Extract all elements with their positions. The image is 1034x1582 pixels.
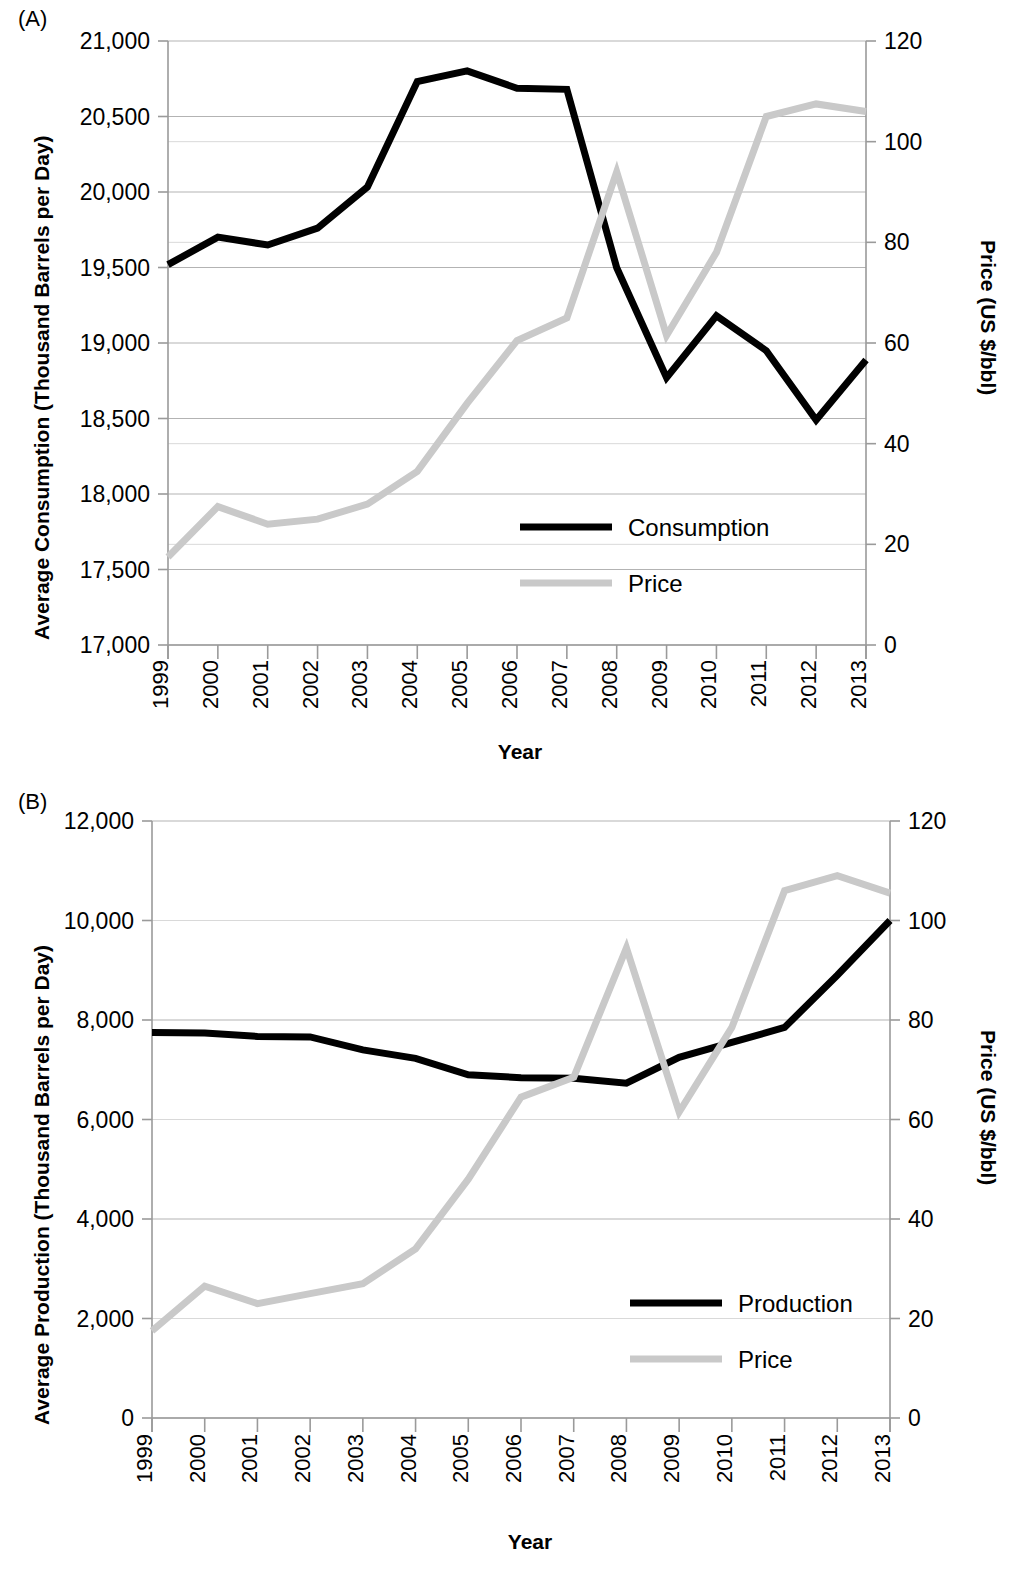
y-left-tick-label: 0 xyxy=(121,1405,134,1431)
y-left-tick-label: 17,500 xyxy=(80,557,150,583)
x-tick-label-year: 2004 xyxy=(397,660,422,709)
x-tick-label-year: 2007 xyxy=(547,660,572,709)
x-tick-label-year: 1999 xyxy=(132,1434,157,1483)
x-tick-label-year: 2013 xyxy=(846,660,871,709)
series-line-price xyxy=(168,104,866,557)
y-right-tick-label: 20 xyxy=(908,1306,934,1332)
y-right-tick-label: 100 xyxy=(884,129,922,155)
y-left-tick-label: 21,000 xyxy=(80,28,150,54)
x-tick-label-year: 2013 xyxy=(870,1434,895,1483)
y-right-tick-label: 20 xyxy=(884,531,910,557)
x-tick-label-year: 2002 xyxy=(298,660,323,709)
y-left-tick-label: 19,000 xyxy=(80,330,150,356)
x-tick-label-year: 2010 xyxy=(712,1434,737,1483)
legend-label-consumption: Consumption xyxy=(628,514,769,541)
y-left-tick-label: 18,000 xyxy=(80,481,150,507)
panel-b-plot: 02,0004,0006,0008,00010,00012,0000204060… xyxy=(0,780,1034,1582)
y-left-tick-label: 4,000 xyxy=(76,1206,134,1232)
legend-label-price: Price xyxy=(628,570,683,597)
x-tick-label-year: 2006 xyxy=(497,660,522,709)
x-tick-label-year: 2011 xyxy=(765,1434,790,1481)
x-tick-label-year: 2012 xyxy=(817,1434,842,1483)
series-line-production xyxy=(152,921,890,1084)
panel-a-consumption-vs-price: (A) Average Consumption (Thousand Barrel… xyxy=(0,0,1034,790)
x-tick-label-year: 2006 xyxy=(501,1434,526,1483)
panel-b-production-vs-price: (B) Average Production (Thousand Barrels… xyxy=(0,780,1034,1582)
x-tick-label-year: 2005 xyxy=(448,1434,473,1483)
y-left-tick-label: 12,000 xyxy=(64,808,134,834)
y-right-tick-label: 0 xyxy=(908,1405,921,1431)
y-left-tick-label: 20,500 xyxy=(80,104,150,130)
y-right-tick-label: 120 xyxy=(908,808,946,834)
y-right-tick-label: 80 xyxy=(884,229,910,255)
x-tick-label-year: 2008 xyxy=(606,1434,631,1483)
y-right-tick-label: 120 xyxy=(884,28,922,54)
panel-a-plot: 17,00017,50018,00018,50019,00019,50020,0… xyxy=(0,0,1034,790)
y-right-tick-label: 100 xyxy=(908,908,946,934)
x-tick-label-year: 2009 xyxy=(659,1434,684,1483)
x-tick-label-year: 2001 xyxy=(237,1434,262,1483)
x-tick-label-year: 2000 xyxy=(198,660,223,709)
x-tick-label-year: 1999 xyxy=(148,660,173,709)
x-tick-label-year: 2003 xyxy=(343,1434,368,1483)
y-right-tick-label: 80 xyxy=(908,1007,934,1033)
y-left-tick-label: 10,000 xyxy=(64,908,134,934)
y-right-tick-label: 60 xyxy=(908,1107,934,1133)
y-right-tick-label: 60 xyxy=(884,330,910,356)
x-tick-label-year: 2005 xyxy=(447,660,472,709)
x-tick-label-year: 2000 xyxy=(185,1434,210,1483)
x-tick-label-year: 2008 xyxy=(597,660,622,709)
y-left-tick-label: 8,000 xyxy=(76,1007,134,1033)
y-right-tick-label: 40 xyxy=(908,1206,934,1232)
x-tick-label-year: 2007 xyxy=(554,1434,579,1483)
x-tick-label-year: 2002 xyxy=(290,1434,315,1483)
x-tick-label-year: 2010 xyxy=(696,660,721,709)
y-left-tick-label: 19,500 xyxy=(80,255,150,281)
legend-label-price: Price xyxy=(738,1346,793,1373)
x-tick-label-year: 2009 xyxy=(647,660,672,709)
y-left-tick-label: 6,000 xyxy=(76,1107,134,1133)
x-tick-label-year: 2012 xyxy=(796,660,821,709)
y-left-tick-label: 20,000 xyxy=(80,179,150,205)
x-tick-label-year: 2003 xyxy=(347,660,372,709)
series-line-price xyxy=(152,876,890,1331)
legend-label-production: Production xyxy=(738,1290,853,1317)
x-tick-label-year: 2011 xyxy=(746,660,771,707)
y-right-tick-label: 40 xyxy=(884,431,910,457)
y-left-tick-label: 2,000 xyxy=(76,1306,134,1332)
x-tick-label-year: 2001 xyxy=(248,660,273,709)
x-tick-label-year: 2004 xyxy=(396,1434,421,1483)
y-left-tick-label: 17,000 xyxy=(80,632,150,658)
y-right-tick-label: 0 xyxy=(884,632,897,658)
y-left-tick-label: 18,500 xyxy=(80,406,150,432)
